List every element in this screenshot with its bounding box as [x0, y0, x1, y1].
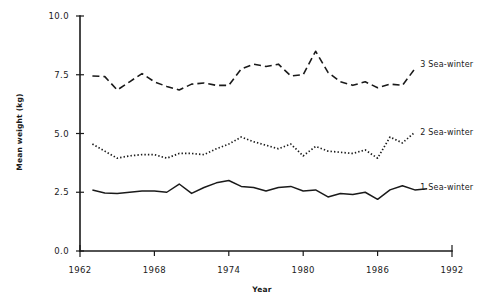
x-tick-label: 1986	[366, 265, 389, 275]
x-axis-tick-labels: 196219681974198019861992	[68, 265, 463, 275]
y-axis-tick-labels: 0.02.55.07.510.0	[48, 11, 69, 256]
y-tick-label: 7.5	[54, 70, 69, 80]
x-tick-label: 1968	[143, 265, 166, 275]
x-axis-title: Year	[251, 285, 271, 294]
x-tick-label: 1974	[217, 265, 240, 275]
line-chart: 0.02.55.07.510.0 19621968197419801986199…	[0, 0, 477, 302]
y-tick-label: 10.0	[48, 11, 69, 21]
y-tick-label: 0.0	[54, 246, 69, 256]
x-tick-label: 1992	[440, 265, 463, 275]
chart-axes	[76, 16, 452, 257]
x-tick-label: 1962	[68, 265, 91, 275]
series-line-2	[92, 132, 414, 158]
series-line-1	[92, 51, 414, 90]
series-label-1: 3 Sea-winter	[420, 60, 474, 69]
x-tick-label: 1980	[292, 265, 315, 275]
chart-series-group	[92, 51, 427, 199]
chart-figure: 0.02.55.07.510.0 19621968197419801986199…	[0, 0, 477, 302]
series-line-3	[92, 181, 427, 200]
series-label-2: 2 Sea-winter	[420, 128, 474, 137]
y-tick-label: 5.0	[54, 129, 69, 139]
y-tick-label: 2.5	[54, 187, 69, 197]
series-label-3: 1 Sea-winter	[420, 183, 474, 192]
series-inline-labels: 3 Sea-winter2 Sea-winter1 Sea-winter	[420, 60, 474, 192]
y-axis-title: Mean weight (kg)	[15, 93, 24, 170]
